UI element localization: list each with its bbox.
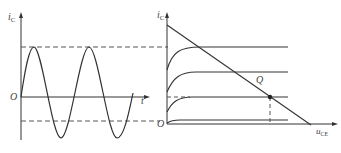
q-point bbox=[268, 95, 272, 99]
transistor-waveform-diagram: iC O t iC O Q uCE bbox=[0, 0, 341, 153]
left-x-axis-label: t bbox=[141, 95, 144, 106]
right-origin-label: O bbox=[157, 118, 164, 129]
right-plot: iC O Q uCE bbox=[157, 9, 338, 137]
left-origin-label: O bbox=[10, 91, 17, 102]
sine-waveform bbox=[21, 47, 133, 138]
left-x-arrow-icon bbox=[144, 95, 150, 99]
left-plot: iC O t bbox=[8, 11, 168, 140]
right-y-axis-label: iC bbox=[157, 9, 165, 22]
right-x-axis-label: uCE bbox=[316, 126, 329, 137]
q-point-label: Q bbox=[256, 74, 264, 85]
left-y-arrow-icon bbox=[19, 12, 23, 18]
right-x-arrow-icon bbox=[332, 122, 338, 126]
load-line bbox=[167, 25, 311, 125]
output-curve-2 bbox=[167, 72, 288, 92]
left-y-axis-label: iC bbox=[8, 11, 16, 24]
right-y-arrow-icon bbox=[165, 12, 169, 18]
